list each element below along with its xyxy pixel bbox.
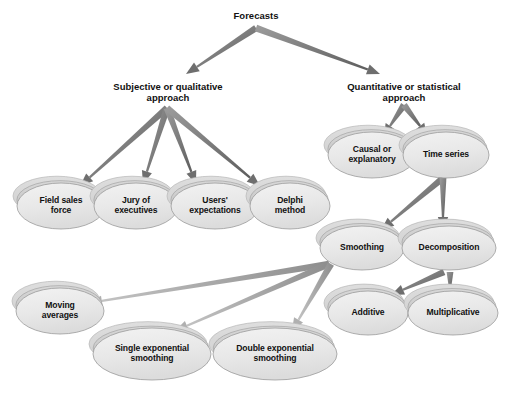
node-additive[interactable]: [324, 284, 408, 335]
diagram-svg: [0, 0, 510, 398]
node-decomposition[interactable]: [398, 219, 496, 270]
node-multiplicative[interactable]: [404, 284, 498, 335]
node-layer: [12, 125, 498, 380]
node-face[interactable]: [250, 183, 330, 229]
edge-forecasts-to-quantitative: [255, 25, 380, 75]
node-face[interactable]: [94, 183, 178, 229]
edge-forecasts-to-subjective: [186, 25, 258, 74]
edge-smoothing-to-single-exponential-smoothing: [175, 261, 330, 331]
node-face[interactable]: [320, 226, 404, 270]
diagram-canvas: Field sales forceJury of executivesUsers…: [0, 0, 510, 398]
node-face[interactable]: [93, 328, 211, 380]
edge-arrowhead: [186, 63, 200, 74]
edge-shaft: [401, 103, 421, 127]
node-time-series[interactable]: [399, 125, 489, 178]
node-face[interactable]: [408, 291, 498, 335]
node-delphi-method[interactable]: [246, 176, 330, 229]
node-field-sales-force[interactable]: [13, 176, 105, 229]
plain-label-quantitative: Quantitative or statistical approach: [319, 81, 489, 103]
node-single-exponential-smoothing[interactable]: [89, 322, 211, 380]
node-double-exponential-smoothing[interactable]: [209, 322, 337, 380]
edge-shaft: [255, 25, 368, 71]
node-moving-averages[interactable]: [12, 281, 104, 334]
node-face[interactable]: [403, 132, 489, 178]
node-smoothing[interactable]: [316, 219, 404, 270]
node-face[interactable]: [171, 183, 259, 229]
node-jury-of-executives[interactable]: [90, 176, 178, 229]
edge-shaft: [186, 261, 330, 327]
plain-label-subjective: Subjective or qualitative approach: [83, 81, 253, 103]
node-face[interactable]: [213, 328, 337, 380]
edge-arrowhead: [366, 65, 380, 75]
edge-shaft: [390, 175, 445, 222]
edge-shaft: [196, 25, 258, 68]
node-face[interactable]: [328, 291, 408, 335]
node-face[interactable]: [16, 288, 104, 334]
node-users-expectations[interactable]: [167, 176, 259, 229]
edge-shaft: [440, 178, 447, 217]
edge-smoothing-to-moving-averages: [89, 261, 330, 306]
node-face[interactable]: [402, 226, 496, 270]
plain-label-forecasts: Forecasts: [171, 10, 341, 21]
edge-subjective-to-delphi-method: [165, 105, 260, 186]
